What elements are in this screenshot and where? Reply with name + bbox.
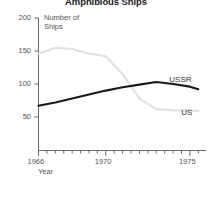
y-axis-title-line1: Number of [44, 13, 79, 22]
y-axis-title: Number ofShips [44, 13, 79, 31]
x-tick-label-1975: 1975 [179, 157, 196, 166]
y-tick-label-200: 200 [5, 13, 31, 22]
y-axis-ticks [35, 18, 39, 117]
x-tick-label-1970: 1970 [95, 157, 112, 166]
y-axis-title-line2: Ships [44, 22, 63, 31]
chart-container: Amphibious Ships 200 150 100 50 1966 197… [0, 0, 212, 222]
series-line-ussr [39, 82, 199, 106]
y-tick-label-50: 50 [5, 112, 31, 121]
series-label-us: US [181, 108, 192, 117]
x-tick-label-1966: 1966 [28, 157, 45, 166]
y-tick-label-150: 150 [5, 46, 31, 55]
series-label-ussr: USSR [169, 75, 191, 84]
y-tick-label-100: 100 [5, 79, 31, 88]
plot-area [0, 0, 212, 222]
x-axis-title: Year [38, 167, 53, 176]
